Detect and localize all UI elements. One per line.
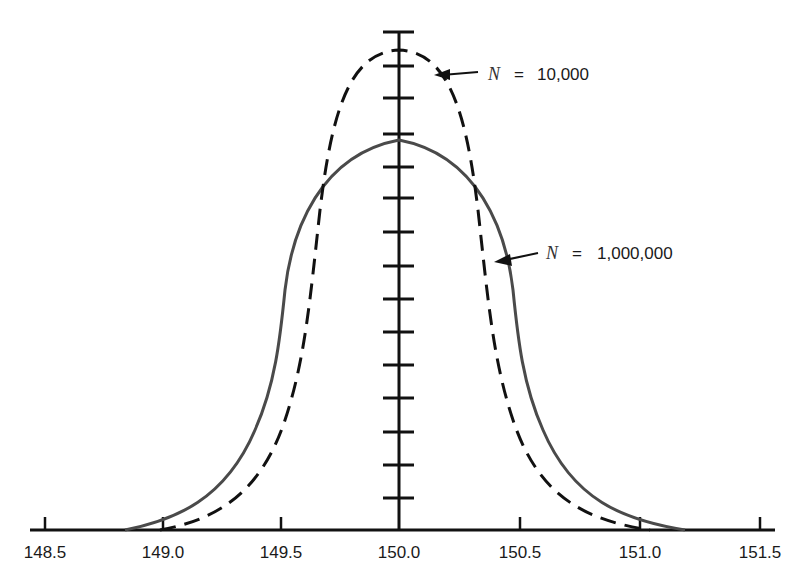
arrow-head-icon	[494, 254, 512, 266]
x-tick-label: 151.5	[739, 543, 782, 562]
annotation-value: 1,000,000	[597, 244, 673, 263]
x-tick-label: 148.5	[24, 543, 67, 562]
annotation-var: N	[487, 64, 501, 84]
arrow-head-icon	[434, 69, 450, 80]
annotation-var: N	[545, 243, 559, 263]
x-tick-labels: 148.5 149.0 149.5 150.0 150.5 151.0 151.…	[24, 543, 782, 562]
annotation-eq: =	[514, 65, 524, 84]
annotation-value: 10,000	[537, 65, 589, 84]
x-tick-label: 150.0	[378, 543, 421, 562]
distribution-chart: 148.5 149.0 149.5 150.0 150.5 151.0 151.…	[0, 0, 807, 580]
annotation-n-10000: N = 10,000	[434, 64, 589, 84]
x-tick-label: 151.0	[619, 543, 662, 562]
annotation-n-1000000: N = 1,000,000	[494, 243, 673, 266]
x-tick-label: 149.5	[260, 543, 303, 562]
annotation-eq: =	[572, 244, 582, 263]
x-tick-label: 150.5	[499, 543, 542, 562]
x-tick-label: 149.0	[142, 543, 185, 562]
dashed-curve-n-10000	[160, 50, 650, 530]
